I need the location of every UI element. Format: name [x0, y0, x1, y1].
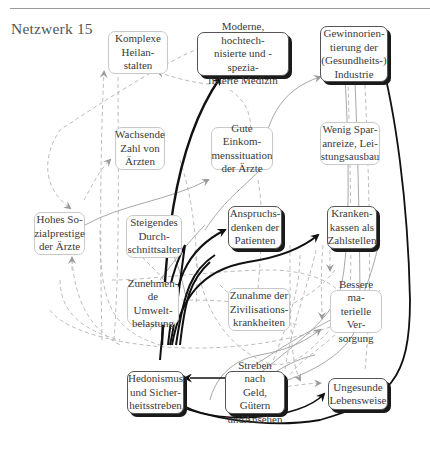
node-zunahme-zivilisationskrankheiten: Zunahme der Zivilisations- krankheiten — [228, 288, 290, 331]
node-krankenkassen-zahlstellen: Kranken- kassen als Zahlstellen — [327, 206, 377, 249]
node-hedonismus-sicherheitsstreben: Hedonismus und Sicher- heitsstreben — [127, 371, 184, 414]
node-streben-geld-guetern-ansehen: Streben nach Geld, Gütern undAnsehen — [225, 371, 285, 414]
node-bessere-materielle-versorgung: Bessere ma- terielle Ver- sorgung — [330, 290, 382, 333]
node-moderne-medizin: Moderne, hochtech- nisierte und -spezia-… — [197, 32, 289, 76]
node-gute-einkommenssituation: Gute Einkom- menssituation der Ärzte — [211, 127, 273, 170]
node-wachsende-zahl-aerzte: Wachsende Zahl von Ärzten — [115, 127, 165, 170]
node-anspruchsdenken-patienten: Anspruchs- denken der Patienten — [228, 206, 282, 249]
node-gewinnorientierung-industrie: Gewinnorien- tierung der (Gesundheits-) … — [320, 26, 388, 82]
node-hohes-sozialprestige: Hohes So- zialprestige der Ärzte — [34, 212, 85, 255]
node-wenig-sparanreize: Wenig Spar- anreize, Lei- stungsausbau — [320, 122, 380, 165]
node-komplexe-heilanstalten: Komplexe Heilan- stalten — [108, 31, 168, 74]
node-zunehmende-umweltbelastung: Zunehmen- de Umwelt- belastung — [127, 282, 179, 325]
node-steigendes-durchschnittsalter: Steigendes Durch- schnittsalter — [126, 215, 182, 258]
node-ungesunde-lebensweise: Ungesunde Lebensweise — [328, 378, 388, 410]
